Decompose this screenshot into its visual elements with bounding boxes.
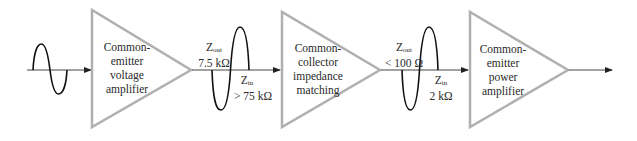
input-sine-icon [33,44,67,94]
stage-3-label: Common- emitter power amplifier [470,42,536,98]
zin-symbol: Z [241,74,248,86]
stage-2-label: Common- collector impedance matching [283,41,353,97]
interface-1-zout-value: 7.5 kΩ [194,57,234,70]
zin-symbol: Z [435,74,442,86]
interface-2-zin-value: 2 kΩ [424,90,458,103]
stage-1-line-2: emitter [92,54,162,68]
interface-1-zin-label: Zin > 75 kΩ [228,74,278,103]
interface-1-zin-value: > 75 kΩ [228,90,278,103]
stage-1-label: Common- emitter voltage amplifier [92,40,162,96]
zout-symbol: Z [396,41,403,53]
stage-1-line-4: amplifier [92,82,162,96]
zout-subscript: out [403,46,412,54]
stage-3-line-1: Common- [470,42,536,56]
zout-symbol: Z [206,41,213,53]
zout-subscript: out [213,46,222,54]
interface-2-zout-label: Zout < 100 Ω [381,41,427,70]
stage-1-line-3: voltage [92,68,162,82]
interface-1-zout-label: Zout 7.5 kΩ [194,41,234,70]
stage-2-line-4: matching [283,83,353,97]
stage-3-line-4: amplifier [470,84,536,98]
stage-1-line-1: Common- [92,40,162,54]
interface-2-zout-value: < 100 Ω [381,57,427,70]
zin-subscript: in [248,79,253,87]
stage-3-line-3: power [470,70,536,84]
stage-2-line-3: impedance [283,69,353,83]
stage-3-line-2: emitter [470,56,536,70]
stage-2-line-1: Common- [283,41,353,55]
stage-2-line-2: collector [283,55,353,69]
interface-2-zin-label: Zin 2 kΩ [424,74,458,103]
zin-subscript: in [442,79,447,87]
